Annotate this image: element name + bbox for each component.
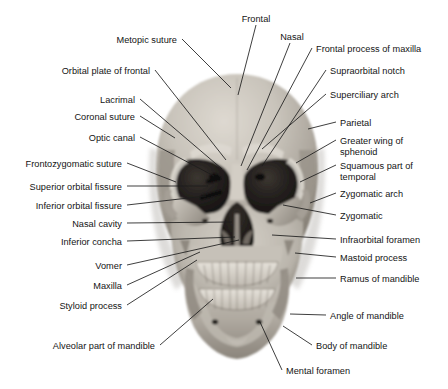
label-ramus-of-mandible[interactable]: Ramus of mandible bbox=[340, 274, 448, 285]
label-nasal[interactable]: Nasal bbox=[232, 32, 352, 43]
skull-anatomy-figure: FrontalNasalMetopic sutureOrbital plate … bbox=[0, 0, 448, 389]
label-frontozygomatic-suture[interactable]: Frontozygomatic suture bbox=[0, 159, 122, 170]
label-lacrimal[interactable]: Lacrimal bbox=[0, 95, 135, 106]
skull-bone-group bbox=[156, 74, 318, 359]
label-zygomatic[interactable]: Zygomatic bbox=[340, 211, 448, 222]
infraorbital-foramen-right bbox=[267, 219, 273, 223]
label-parietal[interactable]: Parietal bbox=[340, 118, 448, 129]
leader-line-angle-of-mandible bbox=[290, 314, 326, 315]
label-alveolar-part-of-mandible[interactable]: Alveolar part of mandible bbox=[0, 341, 155, 352]
label-metopic-suture[interactable]: Metopic suture bbox=[0, 35, 177, 46]
label-orbital-plate-of-frontal[interactable]: Orbital plate of frontal bbox=[0, 66, 150, 77]
label-supraorbital-notch[interactable]: Supraorbital notch bbox=[330, 66, 448, 77]
label-maxilla[interactable]: Maxilla bbox=[0, 281, 122, 292]
label-infraorbital-foramen[interactable]: Infraorbital foramen bbox=[340, 235, 448, 246]
label-squamous-part-of-temporal[interactable]: Squamous part of temporal bbox=[340, 161, 448, 183]
label-superciliary-arch[interactable]: Superciliary arch bbox=[330, 90, 448, 101]
leader-line-body-of-mandible bbox=[283, 326, 312, 345]
label-greater-wing-of-sphenoid[interactable]: Greater wing of sphenoid bbox=[340, 136, 448, 158]
label-body-of-mandible[interactable]: Body of mandible bbox=[316, 341, 448, 352]
label-coronal-suture[interactable]: Coronal suture bbox=[0, 112, 135, 123]
label-frontal-process-of-maxilla[interactable]: Frontal process of maxilla bbox=[316, 44, 448, 55]
label-mental-foramen[interactable]: Mental foramen bbox=[286, 366, 448, 377]
label-mastoid-process[interactable]: Mastoid process bbox=[340, 253, 448, 264]
nasal-bones bbox=[230, 164, 244, 200]
label-inferior-orbital-fissure[interactable]: Inferior orbital fissure bbox=[0, 201, 122, 212]
label-superior-orbital-fissure[interactable]: Superior orbital fissure bbox=[0, 182, 122, 193]
label-nasal-cavity[interactable]: Nasal cavity bbox=[0, 219, 122, 230]
label-frontal[interactable]: Frontal bbox=[196, 14, 316, 25]
label-vomer[interactable]: Vomer bbox=[0, 261, 122, 272]
label-optic-canal[interactable]: Optic canal bbox=[0, 133, 135, 144]
label-inferior-concha[interactable]: Inferior concha bbox=[0, 237, 122, 248]
mental-foramen-right bbox=[256, 320, 262, 325]
leader-line-parietal bbox=[308, 122, 336, 129]
optic-canal-right bbox=[255, 174, 265, 181]
label-angle-of-mandible[interactable]: Angle of mandible bbox=[330, 311, 448, 322]
mental-foramen-left bbox=[212, 320, 218, 325]
label-zygomatic-arch[interactable]: Zygomatic arch bbox=[340, 189, 448, 200]
label-styloid-process[interactable]: Styloid process bbox=[0, 301, 122, 312]
